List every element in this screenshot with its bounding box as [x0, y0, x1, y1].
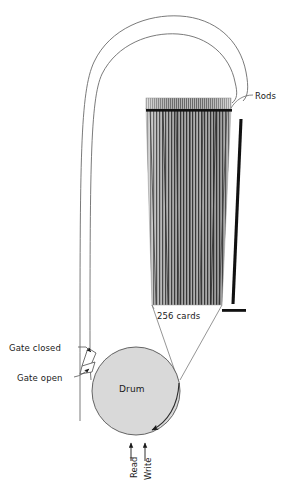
- rods-leader-line: [231, 95, 253, 108]
- rod-horizontal-bottom: [222, 309, 246, 312]
- rod-vertical-right: [233, 119, 241, 304]
- label-gate-open: Gate open: [17, 373, 63, 383]
- label-card-count: 256 cards: [157, 311, 200, 321]
- diagram-figure: Rods 256 cards Gate closed Gate open Dru…: [0, 0, 300, 485]
- label-rods: Rods: [255, 91, 276, 101]
- card-stack-shading: [146, 108, 231, 305]
- label-gate-closed: Gate closed: [9, 343, 61, 353]
- label-read: Read: [129, 457, 139, 478]
- card-stack: [146, 108, 231, 305]
- label-write: Write: [143, 458, 153, 480]
- diagram-canvas: [0, 0, 300, 485]
- rod-horizontal-top: [146, 109, 232, 112]
- card-stack-top-band: [146, 98, 231, 109]
- label-drum: Drum: [119, 384, 145, 394]
